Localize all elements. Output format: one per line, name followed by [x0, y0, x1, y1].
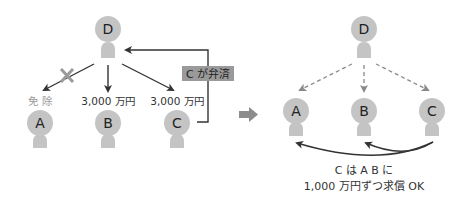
amount-label-c: 3,000 万円	[150, 95, 203, 107]
dashed-arrow-to-a	[300, 64, 352, 90]
person-letter: D	[103, 21, 114, 37]
person-body-icon	[101, 134, 115, 148]
person-body-icon	[425, 122, 439, 136]
person-body-icon	[101, 42, 115, 58]
person-b-left: B	[95, 110, 121, 148]
person-letter: A	[35, 115, 45, 131]
person-letter: B	[103, 115, 113, 131]
person-c-left: C	[164, 110, 190, 148]
recourse-arrow-to-a	[297, 142, 433, 155]
person-c-right: C	[419, 98, 445, 136]
right-panel: D A B C C は A B に 1,000 万円ずつ求償 OK	[283, 16, 445, 193]
recourse-arrow-to-b	[366, 142, 433, 151]
person-body-icon	[357, 122, 371, 136]
person-body-icon	[289, 122, 303, 136]
person-body-icon	[33, 134, 47, 148]
transition-arrow-icon	[239, 107, 258, 122]
dashed-arrow-to-c	[376, 64, 428, 90]
left-panel: D 免 除 3,000 万円 3,000 万円 A B	[27, 16, 234, 148]
person-letter: A	[291, 103, 301, 119]
person-a-left: A	[27, 110, 53, 148]
repayment-label: C が弁済	[186, 67, 230, 81]
person-d-left: D	[95, 16, 121, 58]
person-b-right: B	[351, 98, 377, 136]
person-a-right: A	[283, 98, 309, 136]
amount-label-b: 3,000 万円	[81, 95, 134, 107]
person-letter: C	[172, 115, 182, 131]
claim-arrow-to-c	[122, 64, 173, 90]
caption-line-2: 1,000 万円ずつ求償 OK	[304, 179, 425, 193]
person-body-icon	[170, 134, 184, 148]
person-d-right: D	[351, 16, 377, 58]
repayment-arrow	[126, 50, 208, 122]
diagram-canvas: D 免 除 3,000 万円 3,000 万円 A B	[0, 0, 472, 198]
amount-label-a: 免 除	[28, 95, 52, 107]
person-letter: C	[427, 103, 437, 119]
caption-line-1: C は A B に	[335, 164, 394, 177]
person-letter: B	[359, 103, 369, 119]
person-letter: D	[359, 21, 370, 37]
person-body-icon	[357, 42, 371, 58]
